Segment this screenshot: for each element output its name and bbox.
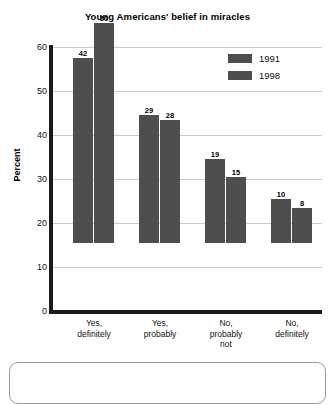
x-label-no-probably-not-line1: No,	[190, 318, 262, 329]
legend-swatch-1991	[228, 54, 252, 63]
bottom-panel-outline	[9, 362, 326, 404]
x-label-no-probably-not: No, probably not	[190, 318, 262, 350]
bar-label-1991-yes-definitely: 42	[68, 50, 98, 58]
bar-group-yes-probably: 29 28	[139, 0, 181, 243]
bar-1998-no-definitely[interactable]	[292, 208, 312, 243]
legend-item-1991[interactable]: 1991	[228, 52, 318, 65]
x-label-yes-definitely: Yes, definitely	[58, 318, 130, 339]
bar-1991-yes-probably[interactable]	[139, 115, 159, 243]
legend-label-1991: 1991	[259, 54, 280, 64]
x-label-yes-probably-line1: Yes,	[124, 318, 196, 329]
legend-item-1998[interactable]: 1998	[228, 69, 318, 82]
bar-label-1998-no-definitely: 8	[287, 200, 317, 208]
chart-legend: 1991 1998	[228, 52, 318, 86]
bar-1998-yes-probably[interactable]	[160, 120, 180, 243]
x-label-no-definitely-line2: definitely	[256, 329, 328, 340]
legend-swatch-1998	[228, 71, 252, 80]
bar-label-1998-yes-probably: 28	[155, 112, 185, 120]
x-label-no-definitely: No, definitely	[256, 318, 328, 339]
x-label-no-probably-not-line3: not	[190, 339, 262, 350]
bar-1998-no-probably-not[interactable]	[226, 177, 246, 243]
bar-group-no-definitely: 10 8	[271, 0, 313, 243]
x-label-no-probably-not-line2: probably	[190, 329, 262, 340]
bar-1991-yes-definitely[interactable]	[73, 58, 93, 243]
bar-group-no-probably-not: 19 15	[205, 0, 247, 243]
legend-label-1998: 1998	[259, 71, 280, 81]
bar-label-1998-yes-definitely: 50	[89, 15, 119, 23]
x-label-yes-definitely-line2: definitely	[58, 329, 130, 340]
bar-series-container: 42 50 29 28 19 15 10 8	[0, 0, 335, 311]
bar-label-1991-no-probably-not: 19	[200, 151, 230, 159]
bar-label-1991-no-definitely: 10	[266, 191, 296, 199]
x-label-no-definitely-line1: No,	[256, 318, 328, 329]
x-label-yes-probably: Yes, probably	[124, 318, 196, 339]
bar-group-yes-definitely: 42 50	[73, 0, 115, 243]
bar-label-1998-no-probably-not: 15	[221, 169, 251, 177]
x-label-yes-definitely-line1: Yes,	[58, 318, 130, 329]
x-label-yes-probably-line2: probably	[124, 329, 196, 340]
